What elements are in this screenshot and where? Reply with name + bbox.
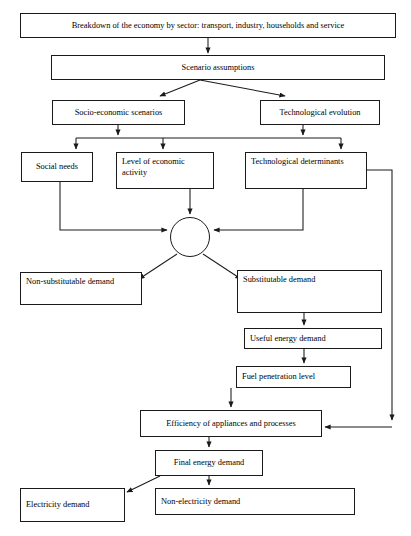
node-scenario-assumptions[interactable]: Scenario assumptions xyxy=(51,55,385,80)
connector-technological-determinants-to-junction xyxy=(214,189,303,230)
node-substitutable-demand[interactable]: Substitutable demand xyxy=(237,270,382,313)
connector-junction-to-substitutable xyxy=(203,254,241,279)
node-efficiency-of-appliances-and-processes[interactable]: Efficiency of appliances and processes xyxy=(140,410,322,437)
connector-junction-to-non-substitutable xyxy=(139,254,177,279)
node-final-energy-demand[interactable]: Final energy demand xyxy=(155,450,263,476)
connector-social-needs-to-junction xyxy=(60,182,167,230)
node-level-of-economic-activity[interactable]: Level of economic activity xyxy=(116,152,214,189)
aggregation-junction-node[interactable] xyxy=(170,217,210,257)
node-technological-evolution[interactable]: Technological evolution xyxy=(260,100,380,125)
connector-scenario-to-technological-evolution xyxy=(200,80,285,96)
node-useful-energy-demand[interactable]: Useful energy demand xyxy=(244,328,382,349)
connector-scenario-to-socio-economic xyxy=(160,80,200,96)
node-electricity-demand[interactable]: Electricity demand xyxy=(20,488,125,522)
node-socio-economic-scenarios[interactable]: Socio-economic scenarios xyxy=(52,100,185,125)
node-non-substitutable-demand[interactable]: Non-substitutable demand xyxy=(20,272,142,305)
node-breakdown[interactable]: Breakdown of the economy by sector: tran… xyxy=(20,13,396,38)
flowchart-diagram: Breakdown of the economy by sector: tran… xyxy=(0,0,411,536)
node-technological-determinants[interactable]: Technological determinants xyxy=(245,152,367,189)
node-fuel-penetration-level[interactable]: Fuel penetration level xyxy=(236,366,351,388)
node-social-needs[interactable]: Social needs xyxy=(21,152,93,182)
node-non-electricity-demand[interactable]: Non-electricity demand xyxy=(155,488,355,515)
